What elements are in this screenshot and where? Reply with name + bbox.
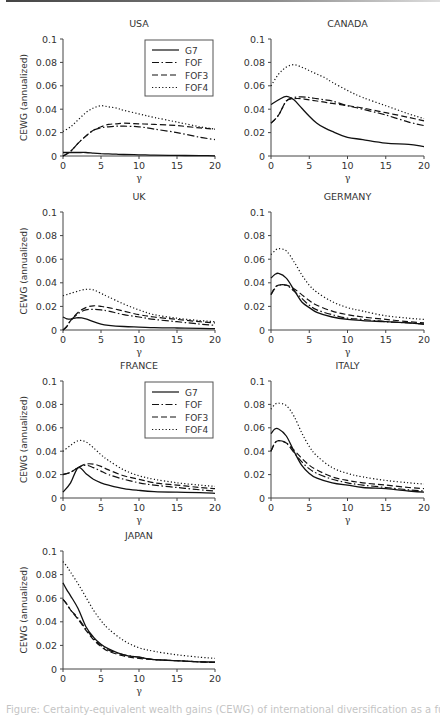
y-tick-label: 0 xyxy=(51,493,57,504)
y-tick-label: 0.08 xyxy=(244,399,265,410)
x-tick-label: 10 xyxy=(133,673,145,684)
chart-title: GERMANY xyxy=(324,191,372,202)
x-axis-label: γ xyxy=(345,346,351,357)
x-tick-label: 5 xyxy=(98,673,104,684)
chart-title: FRANCE xyxy=(120,360,158,371)
y-tick-label: 0.08 xyxy=(244,57,265,68)
y-tick-label: 0.02 xyxy=(36,640,57,651)
y-tick-label: 0.04 xyxy=(36,277,57,288)
chart-panel-usa: USA00.020.040.060.080.105101520γCEWG (an… xyxy=(19,18,221,183)
x-axis-label: γ xyxy=(345,514,351,525)
x-tick-label: 0 xyxy=(268,334,274,345)
x-tick-label: 0 xyxy=(60,160,66,171)
chart-title: ITALY xyxy=(335,360,359,371)
x-tick-label: 20 xyxy=(209,673,221,684)
y-tick-label: 0.1 xyxy=(250,376,265,387)
y-tick-label: 0.02 xyxy=(244,301,265,312)
y-tick-label: 0.1 xyxy=(42,546,57,557)
y-tick-label: 0.06 xyxy=(36,80,57,91)
x-tick-label: 20 xyxy=(418,502,430,513)
legend-label: FOF xyxy=(185,58,202,68)
y-tick-label: 0.1 xyxy=(42,376,57,387)
legend-label: FOF4 xyxy=(185,83,208,93)
y-tick-label: 0.06 xyxy=(244,254,265,265)
series-fof xyxy=(271,285,424,325)
x-tick-label: 5 xyxy=(306,160,312,171)
x-tick-label: 5 xyxy=(98,160,104,171)
chart-panel-japan: JAPAN00.020.040.060.080.105101520γCEWG (… xyxy=(19,530,221,696)
x-tick-label: 20 xyxy=(209,160,221,171)
x-tick-label: 20 xyxy=(209,334,221,345)
y-tick-label: 0 xyxy=(259,151,265,162)
x-tick-label: 15 xyxy=(171,502,183,513)
series-g7 xyxy=(63,467,215,493)
x-tick-label: 0 xyxy=(60,502,66,513)
x-tick-label: 10 xyxy=(341,334,353,345)
chart-title: UK xyxy=(132,191,146,202)
y-tick-label: 0.04 xyxy=(36,104,57,115)
chart-title: JAPAN xyxy=(124,530,153,541)
x-axis-label: γ xyxy=(136,172,142,183)
y-tick-label: 0 xyxy=(259,325,265,336)
series-fof xyxy=(63,465,215,491)
legend-label: FOF3 xyxy=(185,413,208,423)
x-axis-label: γ xyxy=(136,346,142,357)
chart-panel-italy: ITALY00.020.040.060.080.105101520γ xyxy=(244,360,430,525)
series-g7 xyxy=(271,273,424,324)
y-tick-label: 0 xyxy=(51,325,57,336)
legend-label: G7 xyxy=(185,46,198,56)
series-g7 xyxy=(63,583,215,662)
series-fof4 xyxy=(63,562,215,659)
x-tick-label: 20 xyxy=(418,334,430,345)
chart-panel-france: FRANCE00.020.040.060.080.105101520γCEWG … xyxy=(19,360,221,525)
chart-panel-canada: CANADA00.020.040.060.080.105101520γ xyxy=(244,18,430,183)
x-tick-label: 5 xyxy=(306,334,312,345)
y-tick-label: 0.1 xyxy=(42,207,57,218)
x-tick-label: 15 xyxy=(171,334,183,345)
y-axis-label: CEWG (annualized) xyxy=(19,54,29,141)
legend: G7FOFFOF3FOF4 xyxy=(145,40,213,96)
x-tick-label: 5 xyxy=(306,502,312,513)
y-tick-label: 0.06 xyxy=(244,80,265,91)
x-tick-label: 15 xyxy=(380,334,392,345)
legend-label: G7 xyxy=(185,388,198,398)
x-tick-label: 0 xyxy=(268,502,274,513)
legend: G7FOFFOF3FOF4 xyxy=(145,382,213,438)
series-fof3 xyxy=(63,599,215,662)
y-tick-label: 0 xyxy=(259,493,265,504)
x-tick-label: 15 xyxy=(171,673,183,684)
y-tick-label: 0.06 xyxy=(36,254,57,265)
y-tick-label: 0.06 xyxy=(36,593,57,604)
x-tick-label: 15 xyxy=(380,502,392,513)
x-axis-label: γ xyxy=(136,514,142,525)
figure-caption: Figure: Certainty-equivalent wealth gain… xyxy=(6,704,440,716)
y-tick-label: 0.02 xyxy=(36,301,57,312)
x-tick-label: 10 xyxy=(341,502,353,513)
series-fof3 xyxy=(63,123,215,156)
y-tick-label: 0.08 xyxy=(36,399,57,410)
y-tick-label: 0.1 xyxy=(250,207,265,218)
series-fof xyxy=(63,126,215,156)
x-tick-label: 10 xyxy=(133,334,145,345)
y-tick-label: 0 xyxy=(51,151,57,162)
series-fof4 xyxy=(271,403,424,484)
legend-label: FOF4 xyxy=(185,425,208,435)
y-tick-label: 0.1 xyxy=(250,34,265,45)
x-tick-label: 5 xyxy=(98,502,104,513)
series-fof3 xyxy=(271,441,424,489)
y-tick-label: 0.02 xyxy=(244,127,265,138)
y-tick-label: 0.04 xyxy=(36,616,57,627)
y-tick-label: 0.06 xyxy=(244,422,265,433)
series-g7 xyxy=(271,96,424,146)
y-tick-label: 0 xyxy=(51,664,57,675)
x-tick-label: 10 xyxy=(133,160,145,171)
x-tick-label: 10 xyxy=(341,160,353,171)
y-tick-label: 0.06 xyxy=(36,422,57,433)
x-tick-label: 15 xyxy=(380,160,392,171)
series-fof4 xyxy=(271,249,424,320)
y-tick-label: 0.04 xyxy=(36,446,57,457)
y-tick-label: 0.02 xyxy=(244,469,265,480)
x-axis-label: γ xyxy=(345,172,351,183)
x-tick-label: 15 xyxy=(171,160,183,171)
